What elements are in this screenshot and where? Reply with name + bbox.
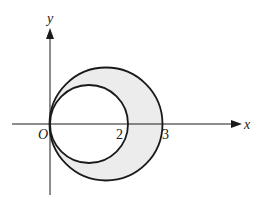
- tick-label-2: 2: [116, 127, 123, 142]
- x-axis-label: x: [243, 117, 251, 132]
- diagram-canvas: y x O 2 3: [0, 0, 258, 205]
- tick-label-3: 3: [162, 127, 169, 142]
- origin-label: O: [38, 127, 48, 142]
- y-axis-label: y: [45, 11, 54, 26]
- x-axis-arrow-icon: [231, 120, 242, 128]
- y-axis-arrow-icon: [46, 28, 54, 39]
